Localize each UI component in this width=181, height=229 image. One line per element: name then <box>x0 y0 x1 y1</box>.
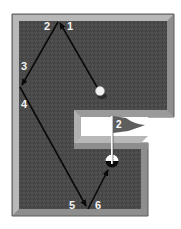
path-label-4: 4 <box>21 98 28 110</box>
path-label-6: 6 <box>95 199 101 211</box>
notch-bevel-top <box>74 110 174 117</box>
golf-ball <box>96 87 105 96</box>
path-label-3: 3 <box>21 60 27 72</box>
flag-label: 2 <box>116 119 122 130</box>
path-label-2: 2 <box>44 20 50 32</box>
mini-golf-course-diagram: 2 1 2 3 4 5 6 <box>0 0 181 229</box>
path-label-5: 5 <box>69 199 75 211</box>
path-label-1: 1 <box>67 20 73 32</box>
